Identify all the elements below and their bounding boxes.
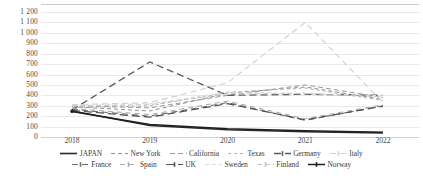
y-axis-tick: 900 [26, 40, 38, 47]
legend-swatch [228, 150, 245, 157]
y-axis-tick: 400 [26, 92, 38, 99]
y-axis: 01002003004005006007008009001 0001 1001 … [0, 0, 40, 145]
legend-row-2: FranceSpainUKSwedenFinlandNorway [0, 159, 423, 170]
x-axis-tick: 2019 [142, 136, 157, 145]
y-axis-tick: 700 [26, 60, 38, 67]
legend-swatch [111, 150, 128, 157]
legend-label: Norway [327, 161, 351, 168]
series-line [72, 85, 383, 108]
legend-swatch [274, 150, 291, 157]
legend-item-texas[interactable]: Texas [228, 150, 265, 157]
legend-swatch [205, 161, 222, 168]
legend-label: Finland [276, 161, 299, 168]
legend-swatch [257, 161, 274, 168]
series-line [72, 103, 383, 121]
series-line [72, 87, 383, 111]
line-chart: 01002003004005006007008009001 0001 1001 … [0, 0, 423, 183]
legend-item-norway[interactable]: Norway [308, 161, 351, 168]
series-lines [41, 0, 419, 145]
x-axis-tick: 2020 [220, 136, 235, 145]
series-line [72, 88, 383, 108]
grid-area [41, 0, 419, 145]
y-axis-tick: 1 200 [20, 8, 38, 15]
legend-item-germany[interactable]: Germany [274, 150, 321, 157]
legend-label: New York [131, 150, 161, 157]
y-axis-tick: 0 [34, 133, 38, 140]
data-point-marker [70, 110, 73, 113]
legend-swatch [72, 161, 89, 168]
y-axis-tick: 1 100 [20, 19, 38, 26]
legend-label: Texas [248, 150, 265, 157]
figure-caption [0, 172, 423, 183]
legend-label: JAPAN [80, 150, 102, 157]
y-axis-tick: 1 000 [20, 29, 38, 36]
legend-swatch [120, 161, 137, 168]
x-axis-tick: 2021 [298, 136, 313, 145]
legend-item-california[interactable]: California [170, 150, 219, 157]
x-axis: 20182019202020212022 [41, 133, 419, 147]
chart-legend: JAPANNew YorkCaliforniaTexasGermanyItaly… [0, 148, 423, 170]
legend-item-japan[interactable]: JAPAN [60, 150, 102, 157]
legend-item-spain[interactable]: Spain [120, 161, 156, 168]
x-axis-tick: 2018 [64, 136, 79, 145]
y-axis-tick: 600 [26, 71, 38, 78]
legend-item-sweden[interactable]: Sweden [205, 161, 248, 168]
legend-label: Sweden [224, 161, 247, 168]
legend-label: UK [185, 161, 196, 168]
legend-swatch [330, 150, 347, 157]
legend-item-new-york[interactable]: New York [111, 150, 160, 157]
series-line [72, 62, 383, 110]
plot-area: 01002003004005006007008009001 0001 1001 … [0, 0, 423, 145]
legend-item-finland[interactable]: Finland [257, 161, 299, 168]
legend-swatch [170, 150, 187, 157]
y-axis-tick: 100 [26, 123, 38, 130]
legend-item-italy[interactable]: Italy [330, 150, 363, 157]
legend-swatch [60, 150, 77, 157]
legend-item-france[interactable]: France [72, 161, 112, 168]
y-axis-tick: 500 [26, 81, 38, 88]
legend-item-uk[interactable]: UK [166, 161, 196, 168]
y-axis-tick: 800 [26, 50, 38, 57]
x-axis-tick: 2022 [375, 136, 390, 145]
y-axis-tick: 200 [26, 112, 38, 119]
legend-label: Italy [349, 150, 363, 157]
legend-label: Spain [140, 161, 157, 168]
legend-swatch [166, 161, 183, 168]
y-axis-tick: 300 [26, 102, 38, 109]
legend-swatch [308, 161, 325, 168]
legend-label: France [91, 161, 111, 168]
legend-label: Germany [293, 150, 321, 157]
legend-label: California [189, 150, 219, 157]
legend-row-1: JAPANNew YorkCaliforniaTexasGermanyItaly [0, 148, 423, 159]
